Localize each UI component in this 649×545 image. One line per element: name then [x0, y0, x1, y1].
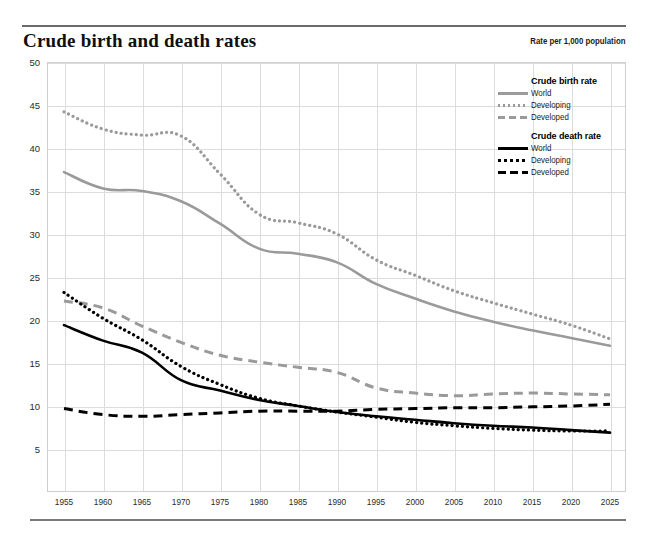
- legend-group-title: Crude birth rate: [531, 76, 641, 86]
- page-title: Crude birth and death rates: [23, 30, 256, 52]
- footer-rule: [30, 519, 626, 521]
- legend-line-swatch-icon: [498, 159, 528, 162]
- legend-item[interactable]: World: [531, 142, 641, 154]
- legend-item[interactable]: Developing: [531, 99, 641, 111]
- x-axis-tick-label: 1985: [289, 497, 307, 507]
- chart-page: Crude birth and death rates Rate per 1,0…: [0, 0, 649, 545]
- x-axis-tick-label: 2025: [601, 497, 619, 507]
- series-line: [64, 301, 610, 396]
- series-line: [64, 172, 610, 346]
- x-axis-tick-label: 1995: [367, 497, 385, 507]
- x-axis-tick-label: 1980: [250, 497, 268, 507]
- x-axis-tick-label: 1965: [133, 497, 151, 507]
- legend-item-label: World: [531, 87, 552, 99]
- x-axis-tick-label: 2000: [406, 497, 424, 507]
- legend-item[interactable]: Developed: [531, 166, 641, 178]
- y-axis-tick-label: 45: [14, 100, 40, 111]
- legend-line-swatch-icon: [498, 171, 528, 174]
- legend-item-label: Developing: [531, 154, 571, 166]
- x-axis-tick-label: 1960: [94, 497, 112, 507]
- x-axis-tick-label: 2020: [562, 497, 580, 507]
- x-axis-tick-label: 2010: [484, 497, 502, 507]
- legend-item-label: World: [531, 142, 552, 154]
- legend-item[interactable]: Developing: [531, 154, 641, 166]
- legend-item[interactable]: Developed: [531, 111, 641, 123]
- legend-item[interactable]: World: [531, 87, 641, 99]
- y-axis-tick-label: 15: [14, 358, 40, 369]
- units-note: Rate per 1,000 population: [530, 36, 625, 46]
- legend-item-label: Developed: [531, 166, 569, 178]
- legend-item-label: Developed: [531, 111, 569, 123]
- legend-line-swatch-icon: [498, 104, 528, 107]
- y-axis-tick-label: 20: [14, 315, 40, 326]
- y-axis-tick-label: 5: [14, 444, 40, 455]
- legend-line-swatch-icon: [498, 92, 528, 95]
- y-axis-tick-label: 50: [14, 57, 40, 68]
- x-axis-tick-label: 2005: [445, 497, 463, 507]
- legend-item-label: Developing: [531, 99, 571, 111]
- x-axis-tick-label: 2015: [523, 497, 541, 507]
- legend-group-title: Crude death rate: [531, 131, 641, 141]
- legend-line-swatch-icon: [498, 147, 528, 150]
- series-line: [64, 112, 610, 339]
- legend-line-swatch-icon: [498, 116, 528, 119]
- y-axis-tick-label: 30: [14, 229, 40, 240]
- x-axis-tick-label: 1990: [328, 497, 346, 507]
- series-line: [64, 404, 610, 416]
- y-axis-tick-label: 10: [14, 401, 40, 412]
- header-top-rule: [22, 25, 626, 27]
- y-axis-tick-label: 25: [14, 272, 40, 283]
- y-axis-tick-label: 35: [14, 186, 40, 197]
- y-axis-tick-label: 40: [14, 143, 40, 154]
- legend-group-spacer: [531, 123, 641, 131]
- chart-legend: Crude birth rateWorldDevelopingDeveloped…: [531, 76, 641, 178]
- x-axis-tick-label: 1955: [55, 497, 73, 507]
- x-axis-tick-label: 1975: [211, 497, 229, 507]
- x-axis-tick-label: 1970: [172, 497, 190, 507]
